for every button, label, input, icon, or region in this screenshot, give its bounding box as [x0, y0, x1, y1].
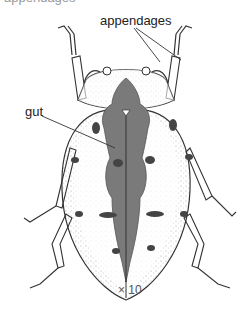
gut-label: gut [25, 104, 43, 119]
top-text-fragment: appendages [4, 0, 76, 5]
beetle-illustration [0, 0, 252, 312]
appendages-label: appendages [100, 13, 172, 28]
magnification-label: × 10 [118, 283, 142, 297]
